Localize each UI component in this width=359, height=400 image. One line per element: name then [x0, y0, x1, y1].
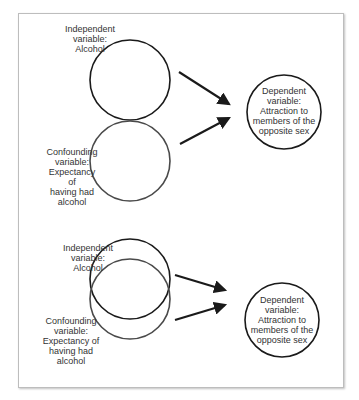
label-line: variable:	[60, 34, 120, 44]
label-line: variable:	[42, 326, 100, 336]
label-line: Confounding	[44, 147, 100, 157]
top-confounding-label: Confounding variable: Expectancy of havi…	[44, 147, 100, 207]
label-line: opposite sex	[248, 335, 316, 345]
top-confounding-circle	[90, 121, 170, 201]
label-line: alcohol	[42, 356, 100, 366]
label-line: variable:	[248, 305, 316, 315]
top-independent-label: Independent variable: Alcohol	[60, 24, 120, 54]
bottom-arrow-confounding-to-dependent	[175, 305, 225, 320]
label-line: variable:	[44, 157, 100, 167]
top-dependent-label: Dependent variable: Attraction to member…	[250, 86, 318, 136]
label-line: opposite sex	[250, 126, 318, 136]
bottom-arrow-independent-to-dependent	[175, 275, 225, 290]
label-line: Independent	[58, 243, 118, 253]
bottom-dependent-label: Dependent variable: Attraction to member…	[248, 295, 316, 345]
label-line: Attraction to	[248, 315, 316, 325]
bottom-independent-label: Independent variable: Alcohol	[58, 243, 118, 273]
label-line: variable:	[58, 253, 118, 263]
label-line: Expectancy of	[44, 167, 100, 187]
label-line: having had	[42, 346, 100, 356]
label-line: members of the	[248, 325, 316, 335]
label-line: Dependent	[250, 86, 318, 96]
label-line: Alcohol	[60, 44, 120, 54]
label-line: Alcohol	[58, 263, 118, 273]
top-arrow-independent-to-dependent	[179, 72, 229, 104]
label-line: Confounding	[42, 316, 100, 326]
label-line: variable:	[250, 96, 318, 106]
top-arrow-confounding-to-dependent	[180, 118, 229, 144]
label-line: Attraction to	[250, 106, 318, 116]
label-line: Independent	[60, 24, 120, 34]
label-line: members of the	[250, 116, 318, 126]
label-line: Dependent	[248, 295, 316, 305]
label-line: Expectancy of	[42, 336, 100, 346]
bottom-confounding-label: Confounding variable: Expectancy of havi…	[42, 316, 100, 366]
label-line: alcohol	[44, 197, 100, 207]
label-line: having had	[44, 187, 100, 197]
